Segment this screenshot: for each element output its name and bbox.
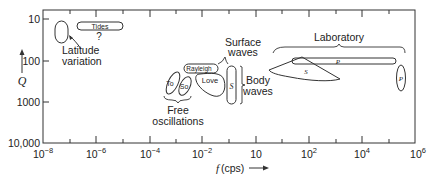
q-frequency-diagram: 10 100 1000 10,000 Q 10−8 10−6 10−4 10−2… xyxy=(0,0,436,178)
arrowhead-icon xyxy=(263,166,269,171)
region-lab-p xyxy=(292,58,396,64)
region-s-body-waves: S Body waves xyxy=(227,66,273,104)
free-oscillations-brace xyxy=(164,96,191,103)
y-tick-1000: 1000 xyxy=(17,96,41,108)
y-tick-100: 100 xyxy=(22,55,40,67)
x-tick-1e2: 102 xyxy=(301,146,317,160)
region-tides: Tides ? xyxy=(77,22,123,42)
region-surface-waves: Surface waves xyxy=(218,36,261,64)
svg-text:oscillations: oscillations xyxy=(152,115,203,127)
x-tick-labels: 10−8 10−6 10−4 10−2 10 102 104 106 xyxy=(33,146,426,160)
svg-text:waves: waves xyxy=(242,85,273,97)
svg-text:S: S xyxy=(304,68,308,76)
svg-text:P: P xyxy=(398,75,404,83)
svg-text:variation: variation xyxy=(62,55,102,67)
x-tick-10: 10 xyxy=(250,148,262,160)
x-tick-1e6: 106 xyxy=(410,146,426,160)
region-rayleigh: Rayleigh xyxy=(184,64,218,73)
svg-text:?: ? xyxy=(96,31,102,42)
arrowhead-icon xyxy=(20,49,25,55)
x-tick-1e-8: 10−8 xyxy=(33,146,53,160)
x-tick-1e-2: 10−2 xyxy=(192,146,212,160)
region-laboratory: Laboratory P S P xyxy=(269,31,406,91)
svg-text:Love: Love xyxy=(202,76,218,85)
svg-text:Rayleigh: Rayleigh xyxy=(186,65,212,73)
svg-text:waves: waves xyxy=(227,46,258,58)
x-tick-1e-6: 10−6 xyxy=(86,146,106,160)
svg-text:Q: Q xyxy=(18,74,27,88)
laboratory-brace xyxy=(273,44,405,53)
svg-text:To: To xyxy=(166,80,174,87)
x-axis-unit: (cps) xyxy=(221,162,244,174)
svg-text:P: P xyxy=(335,58,341,66)
x-tick-1e-4: 10−4 xyxy=(140,146,160,160)
x-axis-label: f (cps) xyxy=(216,162,269,174)
y-tick-10: 10 xyxy=(28,13,40,25)
region-love: Love xyxy=(196,73,225,96)
svg-text:Tides: Tides xyxy=(92,23,109,30)
svg-text:So: So xyxy=(180,83,189,90)
y-ticks xyxy=(43,19,49,102)
x-ticks-top xyxy=(70,10,389,17)
svg-text:Laboratory: Laboratory xyxy=(314,31,365,43)
x-ticks-bottom xyxy=(70,136,389,143)
x-tick-1e4: 104 xyxy=(354,146,370,160)
svg-text:S: S xyxy=(230,82,234,91)
